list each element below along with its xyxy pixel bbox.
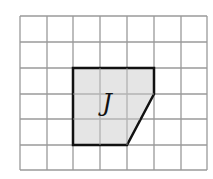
shape-label: J: [97, 88, 117, 118]
